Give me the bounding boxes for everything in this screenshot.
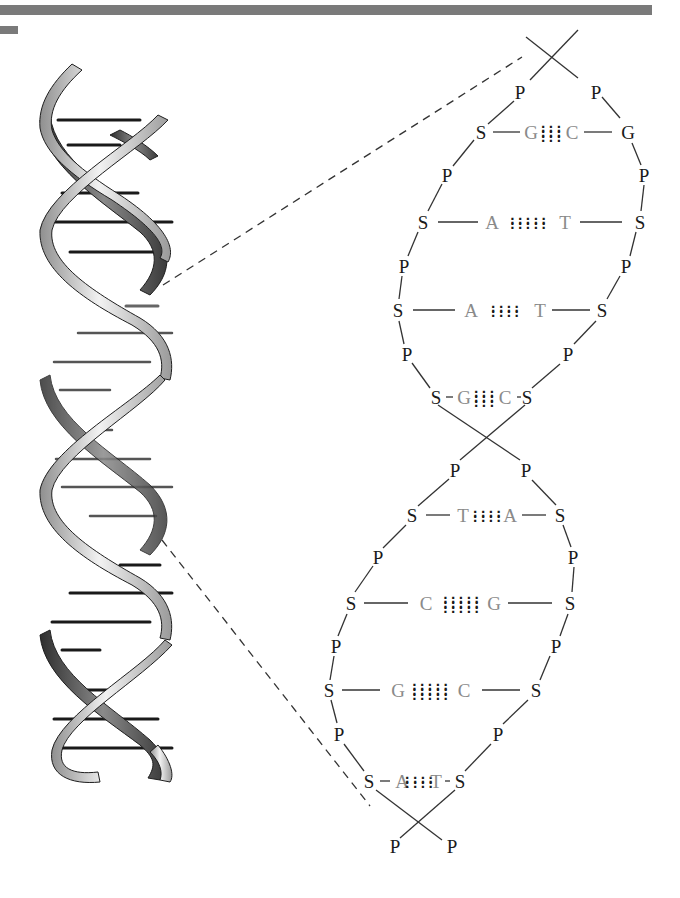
phosphate-left-3: P — [402, 345, 413, 364]
sugar-right-7: S — [531, 681, 542, 700]
phosphate-top-right: P — [591, 83, 602, 102]
base-left-4: G — [457, 388, 471, 407]
phosphate-right-5: P — [568, 548, 579, 567]
sugar-left-8: S — [364, 772, 375, 791]
phosphate-right-6: P — [551, 637, 562, 656]
base-left-5: T — [457, 506, 469, 525]
hydrogen-bonds-4: ::: ::: ::: — [472, 390, 495, 405]
sugar-right-4: S — [522, 388, 533, 407]
phosphate-top-left: P — [515, 83, 526, 102]
base-connectors — [342, 132, 622, 781]
phosphate-right-1: P — [639, 166, 650, 185]
phosphate-bottom-right: P — [447, 837, 458, 856]
phosphate-left-2: P — [399, 257, 410, 276]
phosphate-left-5: P — [373, 548, 384, 567]
sugar-right-3: S — [597, 301, 608, 320]
sugar-right-1: G — [621, 123, 635, 142]
base-right-6: G — [487, 594, 501, 613]
base-right-8: T — [430, 772, 442, 791]
phosphate-left-6: P — [331, 637, 342, 656]
phosphate-left-4: P — [450, 461, 461, 480]
hydrogen-bonds-3: :::: :::: — [489, 305, 520, 315]
sugar-right-8: S — [455, 772, 466, 791]
sugar-left-6: S — [346, 594, 357, 613]
hydrogen-bonds-5: :::: :::: — [471, 510, 502, 520]
base-right-5: A — [503, 506, 517, 525]
base-right-1: C — [566, 123, 579, 142]
hydrogen-bonds-6: ::::: ::::: ::::: — [441, 596, 480, 611]
base-right-7: C — [458, 681, 471, 700]
phosphate-right-3: P — [563, 345, 574, 364]
hydrogen-bonds-2: ::::: ::::: — [508, 217, 547, 227]
sugar-left-7: S — [324, 681, 335, 700]
sugar-right-6: S — [565, 594, 576, 613]
sugar-left-4: S — [431, 388, 442, 407]
phosphate-right-7: P — [493, 725, 504, 744]
sugar-left-1: S — [476, 123, 487, 142]
hydrogen-bonds-1: ::: ::: ::: — [539, 125, 562, 140]
base-left-2: A — [485, 213, 499, 232]
sugar-left-2: S — [418, 213, 429, 232]
base-left-6: C — [420, 594, 433, 613]
base-left-7: G — [391, 681, 405, 700]
base-right-3: T — [534, 301, 546, 320]
phosphate-left-7: P — [334, 725, 345, 744]
phosphate-left-1: P — [442, 166, 453, 185]
sugar-left-5: S — [407, 506, 418, 525]
base-right-4: C — [499, 388, 512, 407]
sugar-right-5: S — [555, 506, 566, 525]
base-left-3: A — [464, 301, 478, 320]
sugar-right-2: S — [635, 213, 646, 232]
ladder-backbone — [330, 30, 644, 840]
base-right-2: T — [559, 213, 571, 232]
base-left-1: G — [524, 123, 538, 142]
helix — [40, 64, 172, 783]
phosphate-right-2: P — [621, 257, 632, 276]
hydrogen-bonds-7: ::::: ::::: ::::: — [410, 683, 449, 698]
phosphate-right-4: P — [521, 461, 532, 480]
sugar-left-3: S — [393, 301, 404, 320]
phosphate-bottom-left: P — [390, 837, 401, 856]
